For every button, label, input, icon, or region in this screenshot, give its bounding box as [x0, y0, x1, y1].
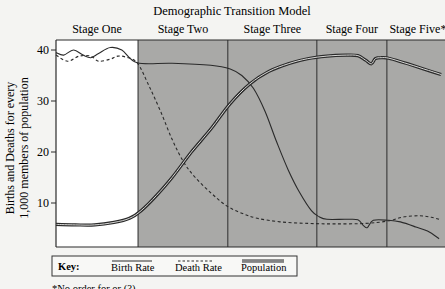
y-tick-label-40: 40	[37, 43, 49, 57]
legend-title: Key:	[58, 261, 80, 272]
legend: Key: Birth Rate Death Rate Population	[52, 256, 297, 276]
y-axis-label-line1: Births and Deaths for every	[3, 82, 17, 215]
legend-label-birth-rate: Birth Rate	[111, 262, 155, 273]
y-tick-label-10: 10	[37, 196, 49, 210]
legend-label-death-rate: Death Rate	[175, 262, 222, 273]
y-tick-label-20: 20	[37, 145, 49, 159]
demographic-transition-chart: Demographic Transition Model Stage OneSt…	[0, 0, 445, 289]
footnote: *No order for or (?)...	[52, 283, 143, 289]
stage-region-stage-four	[317, 40, 387, 247]
legend-label-population: Population	[241, 262, 287, 273]
y-ticks: 10203040	[37, 43, 56, 210]
stage-region-stage-one	[56, 40, 138, 247]
y-axis-label-line2: 1,000 members of population	[17, 77, 31, 218]
stage-label-stage-three: Stage Three	[244, 22, 301, 36]
y-tick-label-30: 30	[37, 94, 49, 108]
stage-labels: Stage OneStage TwoStage ThreeStage FourS…	[72, 22, 445, 36]
stage-region-stage-two	[138, 40, 228, 247]
stage-label-stage-two: Stage Two	[158, 22, 209, 36]
chart-title: Demographic Transition Model	[153, 4, 311, 18]
stage-label-stage-four: Stage Four	[326, 22, 378, 36]
stage-label-stage-five: Stage Five*	[389, 22, 445, 36]
stage-label-stage-one: Stage One	[72, 22, 122, 36]
